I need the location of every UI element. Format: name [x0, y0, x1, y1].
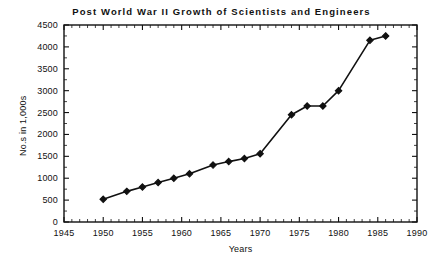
y-axis-label: No.s in 1,000s: [18, 95, 28, 155]
plot-area: [0, 0, 443, 258]
y-tick-label: 500: [42, 195, 58, 205]
data-point-marker: [171, 175, 177, 181]
data-point-marker: [304, 103, 310, 109]
data-series: [100, 33, 389, 203]
data-point-marker: [241, 155, 247, 161]
axis-ticks: [64, 25, 417, 222]
x-tick-label: 1950: [93, 228, 114, 238]
data-point-marker: [100, 196, 106, 202]
y-tick-label: 1500: [37, 151, 58, 161]
data-point-marker: [124, 188, 130, 194]
y-tick-label: 3500: [37, 64, 58, 74]
x-tick-label: 1960: [171, 228, 192, 238]
chart-figure: Post World War II Growth of Scientists a…: [0, 0, 443, 258]
data-point-marker: [226, 158, 232, 164]
y-tick-label: 1000: [37, 173, 58, 183]
x-tick-label: 1955: [132, 228, 153, 238]
y-tick-label: 0: [53, 217, 58, 227]
x-tick-label: 1975: [289, 228, 310, 238]
y-tick-label: 2000: [37, 129, 58, 139]
y-tick-label: 4500: [37, 20, 58, 30]
x-tick-label: 1965: [210, 228, 231, 238]
data-point-marker: [155, 179, 161, 185]
x-tick-label: 1970: [250, 228, 271, 238]
x-axis-label: Years: [229, 244, 253, 254]
y-tick-label: 3000: [37, 86, 58, 96]
y-tick-label: 4000: [37, 42, 58, 52]
axes-frame: [64, 25, 417, 222]
data-point-marker: [210, 162, 216, 168]
y-tick-label: 2500: [37, 108, 58, 118]
data-point-marker: [186, 171, 192, 177]
data-point-marker: [139, 184, 145, 190]
x-tick-label: 1945: [54, 228, 75, 238]
x-tick-label: 1990: [407, 228, 428, 238]
x-tick-label: 1980: [328, 228, 349, 238]
x-tick-label: 1985: [367, 228, 388, 238]
data-point-marker: [382, 33, 388, 39]
